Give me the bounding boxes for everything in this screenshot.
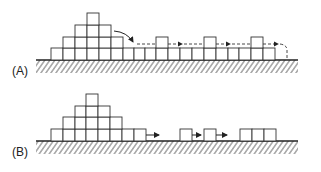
block-pyramid-b: [51, 94, 276, 141]
ground-hatch: [36, 60, 298, 73]
diagram: (A): [0, 0, 321, 172]
panel-b-label: (B): [12, 145, 28, 159]
ground-hatch: [36, 141, 298, 154]
panel-a-label: (A): [12, 64, 28, 78]
panel-b: (B): [12, 94, 298, 159]
block-pyramid-a: [51, 13, 275, 60]
panel-a: (A): [12, 13, 298, 78]
